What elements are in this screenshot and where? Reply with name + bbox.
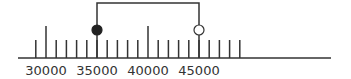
open-circle-icon xyxy=(194,25,204,35)
tick-labels: 30000 35000 40000 45000 xyxy=(25,63,219,78)
tick-label-35000: 35000 xyxy=(76,63,117,78)
number-line-diagram: 30000 35000 40000 45000 xyxy=(0,0,351,79)
tick-label-45000: 45000 xyxy=(178,63,219,78)
ticks xyxy=(36,26,240,58)
tick-label-30000: 30000 xyxy=(25,63,66,78)
tick-label-40000: 40000 xyxy=(127,63,168,78)
closed-circle-icon xyxy=(92,25,102,35)
interval-bracket xyxy=(97,3,199,30)
